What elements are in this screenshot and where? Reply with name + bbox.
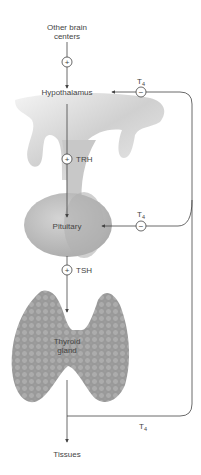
svg-text:+: + (65, 155, 70, 164)
plus-sign-trh: + (62, 154, 72, 164)
svg-text:4: 4 (142, 214, 145, 220)
label-t4-pituitary: T 4 (137, 210, 145, 220)
label-hypothalamus: Hypothalamus (41, 88, 92, 97)
label-other-brain-1: Other brain (47, 23, 87, 32)
svg-text:+: + (65, 266, 70, 275)
label-tissues: Tissues (53, 450, 80, 459)
plus-sign-other-brain: + (62, 57, 72, 67)
plus-sign-tsh: + (62, 265, 72, 275)
label-tsh: TSH (76, 266, 92, 275)
diagram: + + + − − Other brain centers Hypothalam… (0, 0, 201, 475)
svg-text:−: − (139, 222, 144, 231)
hypothalamus-shape (15, 93, 164, 180)
label-trh: TRH (76, 155, 93, 164)
label-t4-tissues: T 4 (139, 422, 147, 432)
minus-sign-hypothalamus: − (136, 87, 146, 97)
svg-text:4: 4 (144, 426, 147, 432)
label-t4-hypothalamus: T 4 (137, 77, 145, 87)
svg-text:4: 4 (142, 81, 145, 87)
label-thyroid-1: Thyroid (54, 337, 81, 346)
svg-text:+: + (65, 58, 70, 67)
label-pituitary: Pituitary (53, 222, 82, 231)
label-thyroid-2: gland (57, 346, 77, 355)
svg-text:−: − (139, 88, 144, 97)
label-other-brain-2: centers (54, 32, 80, 41)
minus-sign-pituitary: − (136, 221, 146, 231)
